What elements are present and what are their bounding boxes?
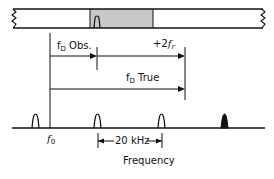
passband-strip [12, 9, 265, 28]
fd-obs-arrow [50, 53, 97, 59]
two-fr-label: +2fr [153, 39, 175, 51]
spectral-line-1 [32, 114, 39, 128]
spacing-label: 20 kHz [115, 136, 149, 146]
spectral-line-true [221, 114, 228, 128]
fd-true-arrow [50, 86, 185, 92]
fd-true-label: fD True [126, 73, 159, 85]
f0-label: f0 [47, 134, 55, 146]
doppler-diagram [0, 0, 274, 179]
break-right-icon [261, 9, 265, 28]
break-left-icon [12, 9, 16, 28]
spectral-line-3 [158, 114, 165, 128]
frequency-axis-label: Frequency [123, 156, 175, 166]
two-fr-arrow [97, 53, 185, 59]
fd-obs-label: fD Obs. [57, 41, 92, 53]
spectral-line-2 [94, 114, 101, 128]
